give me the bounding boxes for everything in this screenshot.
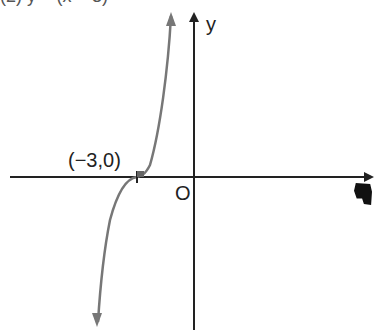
origin-label: O — [175, 183, 191, 203]
function-graph: (2) y = (x + 3)³ (−3,0) O y — [0, 0, 391, 330]
y-axis-label: y — [206, 14, 216, 34]
point-label: (−3,0) — [68, 150, 121, 170]
point-marker — [137, 171, 144, 177]
graph-canvas — [0, 0, 391, 330]
curve-up-arrow-icon — [166, 12, 176, 26]
curve-down-arrow-icon — [92, 313, 102, 327]
